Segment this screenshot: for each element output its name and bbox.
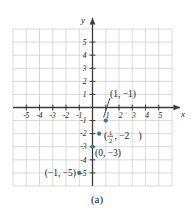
- point-label-half-neg2: ( 1 2 , −2 ): [104, 129, 142, 144]
- data-point: [104, 118, 108, 122]
- data-point: [77, 171, 81, 175]
- y-tick-label: -1: [80, 116, 86, 125]
- y-axis: [90, 18, 96, 186]
- fraction-rest: , −2: [115, 131, 130, 141]
- x-tick-label: 1: [106, 111, 110, 120]
- fraction-numerator: 1: [109, 129, 112, 136]
- x-tick-label: -4: [36, 111, 42, 120]
- y-tick-label: 4: [83, 51, 87, 60]
- coordinate-plane-figure: -5 -4 -3 -2 -1 1 2 3 4 5 5 4 3 2 1 -1 -2…: [0, 0, 194, 215]
- fraction-denominator: 2: [109, 137, 112, 144]
- x-tick-label: -3: [50, 111, 56, 120]
- x-axis-arrow-icon: [174, 105, 181, 111]
- x-tick-label: -5: [23, 111, 29, 120]
- y-axis-label: y: [80, 15, 85, 25]
- y-tick-label: 1: [83, 90, 87, 99]
- x-tick-label: 2: [119, 111, 123, 120]
- figure-caption: (a): [0, 193, 194, 205]
- coordinate-plane-svg: -5 -4 -3 -2 -1 1 2 3 4 5 5 4 3 2 1 -1 -2…: [0, 0, 194, 215]
- point-label-neg1-neg5: (−1, −5): [45, 168, 76, 179]
- y-axis-arrow-icon: [90, 18, 96, 25]
- y-tick-label: -3: [80, 142, 86, 151]
- x-tick-label: 5: [158, 111, 162, 120]
- x-tick-label: 3: [131, 111, 136, 120]
- fraction-open-paren: (: [104, 131, 107, 142]
- x-tick-label: -2: [63, 111, 69, 120]
- x-axis-label: x: [180, 109, 185, 119]
- y-tick-label: 2: [83, 77, 87, 86]
- y-tick-label: 3: [82, 64, 87, 73]
- data-point: [90, 145, 94, 149]
- y-tick-label: -2: [80, 129, 86, 138]
- data-point: [97, 132, 101, 136]
- x-tick-label: 4: [145, 111, 149, 120]
- fraction-close-paren: ): [139, 131, 142, 142]
- point-label-1-neg1: (1, −1): [110, 89, 136, 100]
- y-tick-label: -4: [80, 156, 86, 165]
- y-tick-label: 5: [83, 38, 87, 47]
- point-label-0-neg3: (0, −3): [95, 148, 121, 159]
